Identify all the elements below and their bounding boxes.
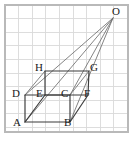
ray-O-to-C bbox=[70, 18, 113, 95]
vertex-label-c: C bbox=[61, 88, 68, 99]
segment-AE bbox=[25, 95, 45, 122]
vertex-label-e: E bbox=[36, 88, 43, 99]
vertex-label-a: A bbox=[13, 117, 21, 128]
vertex-label-b: B bbox=[64, 117, 71, 128]
vertex-label-h: H bbox=[35, 62, 43, 73]
geometry-figure: OHGDECFAB bbox=[0, 0, 135, 141]
vertex-label-d: D bbox=[12, 88, 20, 99]
vertex-label-g: G bbox=[90, 62, 98, 73]
vertex-label-o: O bbox=[112, 6, 120, 17]
vertex-label-f: F bbox=[84, 88, 90, 99]
